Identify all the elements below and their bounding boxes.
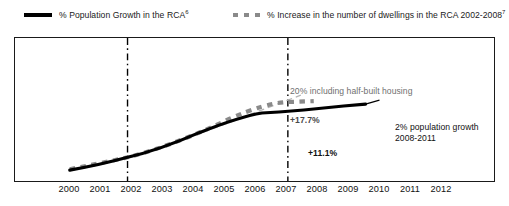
annotation-population-note: 2% population growth 2008-2011 bbox=[395, 122, 479, 143]
x-tick-label-2004: 2004 bbox=[183, 184, 204, 194]
x-tick-label-2000: 2000 bbox=[59, 184, 80, 194]
plot-area: 20% including half-built housing +17.7% … bbox=[14, 37, 495, 182]
x-tick-label-2005: 2005 bbox=[214, 184, 235, 194]
annotation-half-built-housing: 20% including half-built housing bbox=[290, 86, 412, 97]
annotation-population-note-line1: 2% population growth bbox=[395, 122, 479, 133]
x-axis-tick-labels: 2000200120022003200420052006200720082009… bbox=[0, 184, 509, 200]
x-tick-label-2002: 2002 bbox=[121, 184, 142, 194]
legend-solid-line-swatch-icon bbox=[24, 9, 52, 21]
x-tick-label-2007: 2007 bbox=[276, 184, 297, 194]
legend-footnote-population-growth: 6 bbox=[185, 9, 188, 15]
legend-item-dwellings-increase: % Increase in the number of dwellings in… bbox=[232, 7, 505, 23]
legend-footnote-dwellings-increase: 7 bbox=[502, 9, 505, 15]
legend-dashed-line-swatch-icon bbox=[232, 9, 260, 21]
legend-label-population-growth: % Population Growth in the RCA6 bbox=[59, 10, 189, 20]
annotation-dwellings-value: +17.7% bbox=[290, 115, 320, 126]
legend-item-population-growth: % Population Growth in the RCA6 bbox=[24, 7, 189, 23]
x-tick-label-2006: 2006 bbox=[245, 184, 266, 194]
annotation-population-value: +11.1% bbox=[308, 148, 337, 159]
annotation-population-note-line2: 2008-2011 bbox=[395, 133, 479, 144]
x-tick-label-2010: 2010 bbox=[369, 184, 390, 194]
legend-label-dwellings-increase-text: % Increase in the number of dwellings in… bbox=[267, 10, 502, 20]
x-tick-label-2003: 2003 bbox=[152, 184, 173, 194]
series-population-growth-line bbox=[70, 104, 366, 170]
legend-label-dwellings-increase: % Increase in the number of dwellings in… bbox=[267, 10, 505, 20]
x-tick-label-2011: 2011 bbox=[400, 184, 420, 194]
x-tick-label-2008: 2008 bbox=[307, 184, 328, 194]
chart-figure: % Population Growth in the RCA6 % Increa… bbox=[0, 0, 509, 206]
population-note-leader-line bbox=[366, 100, 380, 104]
plot-canvas bbox=[15, 38, 494, 181]
x-tick-label-2001: 2001 bbox=[90, 184, 111, 194]
x-tick-label-2009: 2009 bbox=[338, 184, 359, 194]
legend-label-population-growth-text: % Population Growth in the RCA bbox=[59, 10, 185, 20]
x-tick-label-2012: 2012 bbox=[431, 184, 452, 194]
chart-legend: % Population Growth in the RCA6 % Increa… bbox=[0, 6, 509, 26]
